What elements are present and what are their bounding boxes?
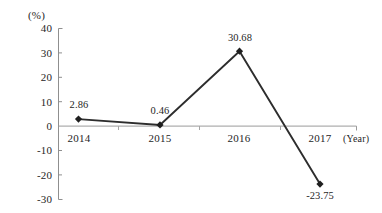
data-label-2014: 2.86 [53, 100, 105, 111]
y-axis-ticks [59, 53, 63, 175]
x-tick-label-2016: 2016 [213, 133, 265, 144]
data-line-series-1 [79, 51, 321, 184]
line-chart: (%) 40 30 20 10 0 -10 -20 -30 2014 2015 … [0, 0, 382, 213]
y-tick-label-30: 30 [14, 48, 52, 59]
y-axis-unit-label: (%) [28, 10, 45, 21]
x-axis-caption: (Year) [343, 134, 369, 144]
data-label-2016: 30.68 [213, 33, 267, 44]
x-axis-ticks [119, 126, 281, 130]
y-tick-label-0: 0 [14, 121, 52, 132]
data-label-2015: 0.46 [134, 106, 186, 117]
y-tick-label-20: 20 [14, 72, 52, 83]
data-label-2017: -23.75 [292, 191, 348, 202]
data-marker-2014 [75, 116, 82, 123]
y-tick-label-40: 40 [14, 23, 52, 34]
y-tick-label-neg30: -30 [14, 194, 52, 205]
y-tick-label-neg20: -20 [14, 170, 52, 181]
y-tick-label-10: 10 [14, 97, 52, 108]
x-tick-label-2015: 2015 [134, 133, 186, 144]
y-tick-label-neg10: -10 [14, 145, 52, 156]
x-tick-label-2014: 2014 [53, 133, 105, 144]
data-markers [75, 48, 324, 188]
x-tick-label-2017: 2017 [294, 133, 346, 144]
